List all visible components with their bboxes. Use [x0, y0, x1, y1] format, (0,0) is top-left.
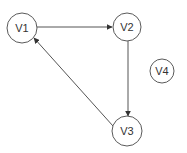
node-v1: V1 — [7, 13, 37, 43]
edge-v3-v1 — [34, 38, 113, 126]
node-label: V1 — [15, 22, 28, 34]
node-label: V4 — [155, 65, 168, 77]
node-v3: V3 — [112, 116, 142, 146]
edges — [34, 27, 128, 126]
directed-graph: V1 V2 V3 V4 — [0, 0, 187, 153]
node-v4: V4 — [150, 59, 174, 83]
node-label: V3 — [120, 125, 133, 137]
node-v2: V2 — [113, 13, 141, 41]
node-label: V2 — [120, 21, 133, 33]
nodes: V1 V2 V3 V4 — [7, 13, 174, 146]
